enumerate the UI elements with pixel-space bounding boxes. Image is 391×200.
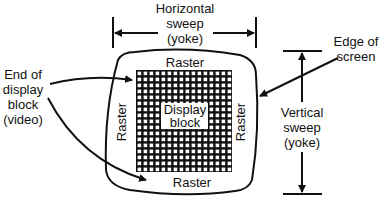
vertical-sweep-label-1: Vertical xyxy=(281,105,324,120)
raster-bottom-label: Raster xyxy=(173,175,212,190)
end-of-display-label-2: display xyxy=(3,82,44,97)
raster-top-label: Raster xyxy=(166,55,205,70)
horizontal-sweep-label-2: sweep xyxy=(166,16,204,31)
display-grid: Display block xyxy=(136,70,232,172)
end-of-display-label-1: End of xyxy=(4,67,42,82)
end-of-display-label-4: (video) xyxy=(3,112,43,127)
raster-left-label: Raster xyxy=(114,102,129,141)
horizontal-sweep-label-3: (yoke) xyxy=(167,31,203,46)
vertical-sweep-label-3: (yoke) xyxy=(284,135,320,150)
edge-of-screen-label-1: Edge of xyxy=(334,34,379,49)
vertical-sweep-dimension: Vertical sweep (yoke) xyxy=(281,51,324,194)
horizontal-sweep-dimension: Horizontal sweep (yoke) xyxy=(113,1,256,48)
display-block-label-2: block xyxy=(170,115,201,130)
edge-of-screen-label-2: screen xyxy=(336,49,375,64)
crt-raster-diagram: Horizontal sweep (yoke) Display block Ra… xyxy=(0,0,391,200)
raster-right-label: Raster xyxy=(233,102,248,141)
horizontal-sweep-label-1: Horizontal xyxy=(156,1,215,16)
vertical-sweep-label-2: sweep xyxy=(283,120,321,135)
end-of-display-label-3: block xyxy=(8,97,39,112)
edge-of-screen-callout: Edge of screen xyxy=(260,34,379,96)
